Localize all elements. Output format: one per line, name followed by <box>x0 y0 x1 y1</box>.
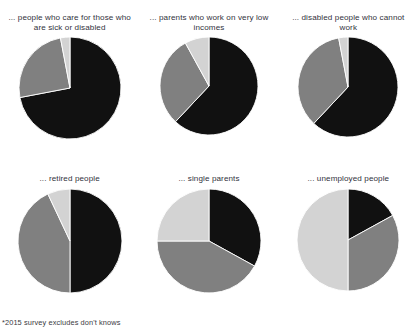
figure-footnote: *2015 survey excludes don't knows <box>2 318 121 327</box>
pie-chart-title-carers: ... people who care for those who are si… <box>6 13 134 33</box>
pie-svg <box>155 187 263 295</box>
pie-chart-low-income-parents <box>158 35 260 137</box>
pie-chart-cell-retired: ... retired people <box>0 160 139 320</box>
pie-svg <box>158 35 260 137</box>
pie-chart-disabled <box>296 35 400 139</box>
pie-chart-cell-carers: ... people who care for those who are si… <box>0 0 139 160</box>
pie-chart-title-single-parents: ... single parents <box>145 174 273 184</box>
pie-chart-cell-disabled: ... disabled people who cannot work <box>279 0 418 160</box>
pie-slice-black <box>70 189 122 293</box>
pie-chart-single-parents <box>155 187 263 295</box>
pie-chart-carers <box>17 35 123 141</box>
pie-svg <box>295 187 401 293</box>
pie-svg <box>16 187 124 295</box>
pie-chart-grid: ... people who care for those who are si… <box>0 0 418 320</box>
pie-chart-figure: ... people who care for those who are si… <box>0 0 418 329</box>
pie-chart-cell-single-parents: ... single parents <box>139 160 278 320</box>
pie-chart-cell-low-income-parents: ... parents who work on very low incomes <box>139 0 278 160</box>
pie-chart-title-disabled: ... disabled people who cannot work <box>284 13 412 33</box>
pie-chart-title-retired: ... retired people <box>6 174 134 184</box>
pie-chart-retired <box>16 187 124 295</box>
pie-chart-cell-unemployed: ... unemployed people <box>279 160 418 320</box>
pie-slice-light-gray <box>297 189 348 291</box>
pie-svg <box>17 35 123 141</box>
pie-slice-light-gray <box>157 189 209 241</box>
pie-chart-unemployed <box>295 187 401 293</box>
pie-chart-title-low-income-parents: ... parents who work on very low incomes <box>145 13 273 33</box>
pie-chart-title-unemployed: ... unemployed people <box>284 174 412 184</box>
pie-svg <box>296 35 400 139</box>
